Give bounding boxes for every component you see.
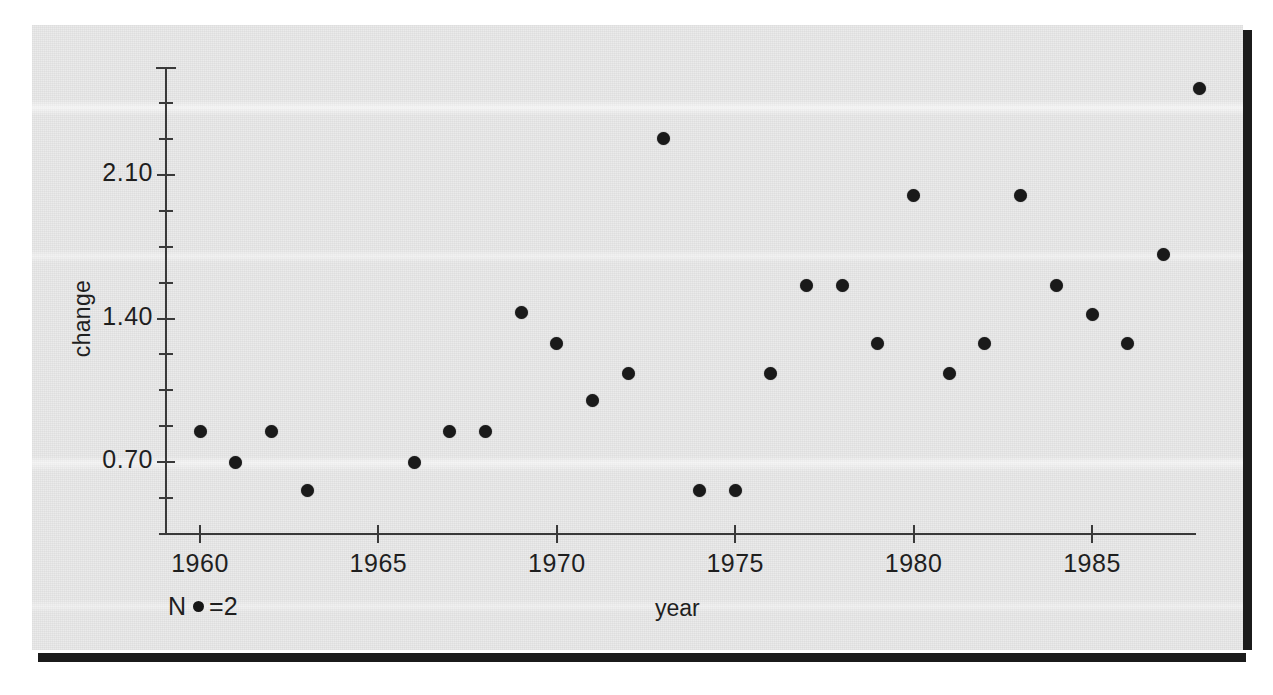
- y-tick-minor: [159, 102, 173, 104]
- y-tick-minor: [159, 353, 173, 355]
- data-point: [729, 484, 742, 497]
- data-point: [1086, 308, 1099, 321]
- legend-suffix: =2: [209, 592, 238, 621]
- x-tick-label: 1985: [1032, 549, 1152, 578]
- y-tick-label: 2.10: [63, 158, 153, 187]
- y-tick-minor: [159, 533, 173, 535]
- y-tick-top: [156, 67, 176, 69]
- data-point: [1121, 337, 1134, 350]
- x-tick: [734, 525, 736, 543]
- y-tick-major: [157, 461, 175, 463]
- y-tick-minor: [159, 210, 173, 212]
- data-point: [693, 484, 706, 497]
- y-tick-minor: [159, 425, 173, 427]
- data-point: [871, 337, 884, 350]
- data-point: [550, 337, 563, 350]
- data-point: [194, 425, 207, 438]
- data-point: [301, 484, 314, 497]
- data-point: [622, 367, 635, 380]
- scatter-plot: 0.701.402.10 196019651970197519801985 ch…: [0, 0, 1273, 695]
- x-tick-label: 1960: [140, 549, 260, 578]
- y-tick-minor: [159, 497, 173, 499]
- x-tick: [1091, 525, 1093, 543]
- y-tick-major: [157, 318, 175, 320]
- data-point: [1157, 248, 1170, 261]
- data-point: [586, 394, 599, 407]
- data-point: [978, 337, 991, 350]
- data-point: [764, 367, 777, 380]
- data-point: [943, 367, 956, 380]
- legend-prefix: N: [168, 592, 186, 621]
- x-tick: [199, 525, 201, 543]
- data-point: [800, 279, 813, 292]
- y-tick-minor: [159, 246, 173, 248]
- data-point: [657, 132, 670, 145]
- y-tick-minor: [159, 389, 173, 391]
- data-point: [408, 456, 421, 469]
- data-point: [1193, 82, 1206, 95]
- x-axis-title: year: [655, 595, 700, 622]
- data-point: [1014, 189, 1027, 202]
- y-tick-minor: [159, 282, 173, 284]
- data-point: [443, 425, 456, 438]
- y-tick-major: [157, 174, 175, 176]
- x-tick-label: 1970: [497, 549, 617, 578]
- data-point: [907, 189, 920, 202]
- x-tick: [556, 525, 558, 543]
- y-tick-label: 0.70: [63, 445, 153, 474]
- data-point: [836, 279, 849, 292]
- x-tick: [913, 525, 915, 543]
- legend-n-equals-two: N =2: [168, 592, 238, 621]
- data-point: [229, 456, 242, 469]
- data-point: [1050, 279, 1063, 292]
- legend-dot-icon: [193, 601, 204, 612]
- x-tick-label: 1965: [318, 549, 438, 578]
- x-tick-label: 1980: [854, 549, 974, 578]
- y-tick-minor: [159, 138, 173, 140]
- x-tick: [377, 525, 379, 543]
- scanned-figure-page: 0.701.402.10 196019651970197519801985 ch…: [0, 0, 1273, 695]
- x-tick-label: 1975: [675, 549, 795, 578]
- data-point: [515, 306, 528, 319]
- y-axis-title: change: [69, 259, 96, 379]
- data-point: [265, 425, 278, 438]
- x-axis-line: [165, 533, 1196, 535]
- data-point: [479, 425, 492, 438]
